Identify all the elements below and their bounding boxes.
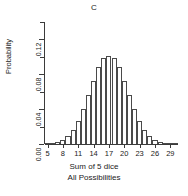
x-axis-tick bbox=[170, 145, 171, 148]
y-axis-tick-label: 0.04 bbox=[35, 108, 42, 132]
x-axis-sublabel: All Possibilities bbox=[0, 172, 188, 183]
x-axis-tick bbox=[155, 145, 156, 148]
x-axis-tick bbox=[109, 145, 110, 148]
histogram-bar bbox=[173, 143, 178, 144]
x-axis-label-block: Sum of 5 dice All Possibilities bbox=[0, 161, 188, 183]
x-axis-tick-label: 11 bbox=[70, 149, 86, 158]
x-axis-tick bbox=[78, 145, 79, 148]
y-axis-tick-label: 0.12 bbox=[35, 38, 42, 62]
x-axis-tick-label: 5 bbox=[40, 149, 56, 158]
x-axis-tick-label: 29 bbox=[162, 149, 178, 158]
x-axis-tick bbox=[63, 145, 64, 148]
x-axis-line bbox=[45, 144, 178, 145]
x-axis-tick bbox=[140, 145, 141, 148]
x-axis-label: Sum of 5 dice bbox=[0, 161, 188, 172]
chart-title: C bbox=[0, 3, 188, 13]
x-axis-tick-label: 26 bbox=[147, 149, 163, 158]
x-axis-tick-label: 20 bbox=[116, 149, 132, 158]
y-axis-tick-label: 0.08 bbox=[35, 73, 42, 97]
x-axis-tick bbox=[48, 145, 49, 148]
x-axis-tick-label: 23 bbox=[132, 149, 148, 158]
y-axis-tick bbox=[40, 22, 44, 23]
x-axis-tick-label: 8 bbox=[55, 149, 71, 158]
x-axis-tick bbox=[94, 145, 95, 148]
x-axis-tick-label: 14 bbox=[86, 149, 102, 158]
x-axis-tick bbox=[124, 145, 125, 148]
plot-area bbox=[45, 22, 178, 144]
y-axis-label: Probability bbox=[4, 25, 13, 89]
histogram-chart: C Probability 0.000.040.080.12 581114172… bbox=[0, 0, 188, 196]
x-axis-tick-label: 17 bbox=[101, 149, 117, 158]
